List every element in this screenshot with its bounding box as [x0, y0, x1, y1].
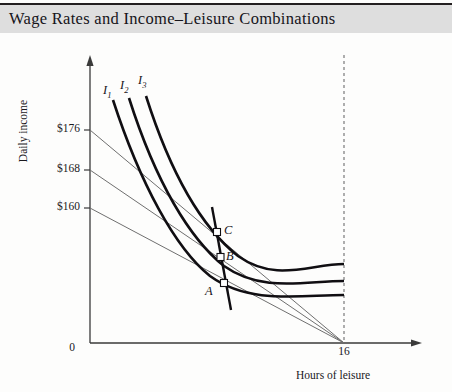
y-axis-ticks — [84, 130, 90, 208]
origin-label: 0 — [62, 341, 82, 353]
indifference-curves — [113, 96, 344, 297]
y-tick-label-168: $168 — [36, 162, 80, 174]
point-c-marker — [214, 229, 221, 236]
curve-label-sub-i2: 2 — [124, 85, 128, 95]
point-b-marker — [217, 254, 224, 261]
point-a-marker — [221, 280, 228, 287]
figure-container: Wage Rates and Income–Leisure Combinatio… — [0, 0, 452, 392]
x-axis — [90, 339, 422, 346]
curve-label-sub-i1: 1 — [107, 90, 111, 100]
indifference-curve-label-i3: I3 — [138, 73, 146, 90]
indifference-curve-label-i1: I1 — [103, 83, 111, 100]
point-label-c: C — [224, 223, 232, 238]
point-label-a: A — [205, 284, 213, 299]
y-axis — [86, 55, 93, 343]
indifference-curve-label-i2: I2 — [120, 78, 128, 95]
y-tick-label-160: $160 — [36, 200, 80, 212]
curve-label-sub-i3: 3 — [142, 80, 146, 90]
y-axis-label: Daily income — [17, 86, 29, 176]
y-tick-label-176: $176 — [36, 122, 80, 134]
plot-area: Daily income Hours of leisure $176 $168 … — [0, 33, 452, 392]
indifference-curve-i3 — [146, 96, 344, 270]
figure-title: Wage Rates and Income–Leisure Combinatio… — [9, 7, 439, 31]
x-tick-label-16: 16 — [332, 345, 356, 357]
x-axis-label: Hours of leisure — [296, 369, 370, 381]
chart-svg — [0, 33, 452, 392]
point-label-b: B — [226, 249, 234, 264]
